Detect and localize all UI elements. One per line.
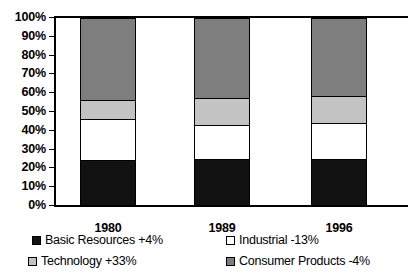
y-tick-label: 80% — [0, 49, 46, 61]
legend-swatch-icon — [28, 257, 37, 266]
segment-technology-1996[interactable] — [311, 96, 367, 122]
y-tick-label: 90% — [0, 30, 46, 42]
y-tick-label: 0% — [0, 199, 46, 211]
segment-consumer-products-1996[interactable] — [311, 18, 367, 97]
segment-industrial-1980[interactable] — [80, 119, 136, 160]
legend-label: Industrial -13% — [239, 234, 319, 247]
y-axis-labels: 100% 90% 80% 70% 60% 50% 40% 30% 20% 10%… — [0, 8, 46, 213]
y-tick-label: 50% — [0, 105, 46, 117]
segment-consumer-products-1989[interactable] — [194, 18, 250, 99]
bar-1980[interactable] — [80, 18, 136, 206]
chart-legend: Basic Resources +4% Industrial -13% Tech… — [28, 232, 408, 274]
legend-label: Technology +33% — [41, 255, 136, 268]
legend-item-technology[interactable]: Technology +33% — [28, 253, 136, 269]
y-tick-label: 30% — [0, 143, 46, 155]
plot-frame: 100% 90% 80% 70% 60% 50% 40% 30% 20% 10%… — [0, 8, 411, 213]
segment-consumer-products-1980[interactable] — [80, 18, 136, 101]
legend-item-industrial[interactable]: Industrial -13% — [226, 232, 319, 248]
segment-basic-resources-1980[interactable] — [80, 160, 136, 205]
y-tick-label: 60% — [0, 86, 46, 98]
plot-area — [55, 18, 408, 206]
y-tick-label: 20% — [0, 161, 46, 173]
segment-industrial-1996[interactable] — [311, 123, 367, 159]
legend-swatch-icon — [226, 257, 235, 266]
y-tick-label: 10% — [0, 180, 46, 192]
stacked-bar-chart: 100% 90% 80% 70% 60% 50% 40% 30% 20% 10%… — [0, 0, 411, 277]
segment-technology-1989[interactable] — [194, 98, 250, 124]
legend-label: Basic Resources +4% — [45, 234, 163, 247]
segment-industrial-1989[interactable] — [194, 125, 250, 159]
segment-technology-1980[interactable] — [80, 100, 136, 119]
legend-item-consumer-products[interactable]: Consumer Products -4% — [226, 253, 370, 269]
legend-swatch-icon — [226, 236, 235, 245]
bar-1989[interactable] — [194, 18, 250, 206]
bar-1996[interactable] — [311, 18, 367, 206]
segment-basic-resources-1989[interactable] — [194, 159, 250, 206]
legend-item-basic-resources[interactable]: Basic Resources +4% — [32, 232, 163, 248]
y-tick-label: 70% — [0, 67, 46, 79]
legend-label: Consumer Products -4% — [239, 255, 370, 268]
segment-basic-resources-1996[interactable] — [311, 159, 367, 206]
y-tick-label: 100% — [0, 11, 46, 23]
legend-swatch-icon — [32, 236, 41, 245]
y-tick-label: 40% — [0, 124, 46, 136]
